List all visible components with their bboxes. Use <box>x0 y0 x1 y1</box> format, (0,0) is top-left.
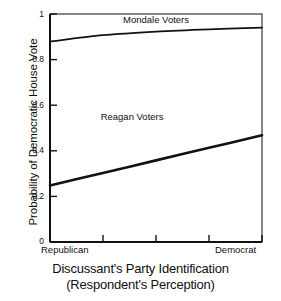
x-tick-label-democrat: Democrat <box>215 244 256 255</box>
y-axis-label: Probability of Democratic House Vote <box>27 17 39 247</box>
x-axis-label-line1: Discussant's Party Identification <box>0 261 281 276</box>
x-tick-label-republican: Republican <box>41 244 89 255</box>
axis-frame <box>50 14 262 242</box>
y-tick-label-0-8: 0.8 <box>18 54 44 64</box>
x-axis-ticks <box>50 235 262 242</box>
series-line-reagan <box>50 135 262 185</box>
chart-figure: Probability of Democratic House Vote <box>0 0 281 301</box>
plot-border <box>50 14 262 242</box>
y-tick-label-0-4: 0.4 <box>18 145 44 155</box>
x-axis-label-line2: (Respondent's Perception) <box>0 277 281 292</box>
y-tick-label-1: 1 <box>18 9 44 19</box>
series-line-mondale <box>50 28 262 42</box>
y-tick-label-0-6: 0.6 <box>18 100 44 110</box>
y-axis-ticks <box>50 14 57 242</box>
series-annotation-mondale: Mondale Voters <box>123 14 189 25</box>
y-tick-label-0-2: 0.2 <box>18 191 44 201</box>
series-annotation-reagan: Reagan Voters <box>101 111 164 122</box>
